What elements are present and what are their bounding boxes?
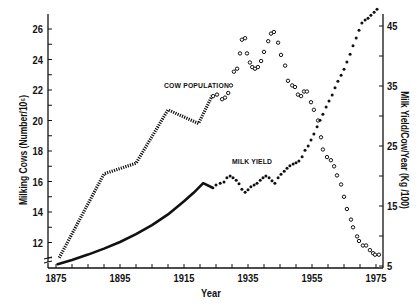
series-layer [58,8,381,265]
milk-yield-point [345,61,348,64]
x-tick-label: 1975 [366,272,387,284]
cow-population-point [267,40,270,43]
cow-population-point [248,61,251,64]
cow-population-point [312,108,315,111]
x-tick-label: 1895 [110,272,131,284]
cow-population-point [342,195,345,198]
cow-population-point [238,52,241,55]
milk-yield-point [312,133,315,136]
milk-yield-point [319,119,322,122]
milk-yield-line [58,183,214,264]
milk-yield-point [244,191,247,194]
right-y-tick-label: 25 [387,140,397,152]
cow-population-point [299,94,302,97]
cow-population-point [272,30,275,33]
cow-population-point [351,226,354,229]
milk-yield-point [364,19,367,22]
milk-yield-point [331,94,334,97]
left-y-tick-label: 12 [26,237,43,249]
cow-population-point [279,53,282,56]
milk-yield-point [367,17,370,20]
cow-population-point [235,67,238,70]
milk-yield-point [215,184,218,187]
milk-yield-point [304,149,307,152]
cow-population-point [245,52,248,55]
cow-population-point [309,101,312,104]
milk-yield-point [349,53,352,56]
cow-population-annotation: COW POPULATION [164,81,229,90]
cow-population-point [232,70,235,73]
milk-yield-point [268,176,271,179]
milk-yield-point [369,14,372,17]
milk-yield-point [321,113,324,116]
milk-yield-point [358,29,361,32]
milk-yield-point [343,68,346,71]
cow-population-point [286,79,289,82]
x-tick-label: 1875 [46,272,67,284]
left-y-tick-label: 18 [26,145,43,157]
cow-population-point [223,96,226,99]
milk-yield-point [310,139,313,142]
milk-yield-point [262,176,265,179]
milk-yield-point [280,173,283,176]
cow-population-point [276,41,279,44]
milk-yield-point [360,22,363,25]
right-y-tick-label: 35 [387,80,397,92]
x-tick-label: 1955 [302,272,323,284]
cow-population-point [215,93,218,96]
milk-yield-point [286,167,289,170]
milk-yield-point [355,37,358,40]
cow-population-point [332,165,335,168]
cow-population-point [211,94,214,97]
left-y-tick-label: 24 [26,54,43,66]
milk-yield-point [225,176,228,179]
milk-yield-point [283,170,286,173]
milk-yield-point [264,175,267,178]
milk-yield-point [273,182,276,185]
cow-population-point [349,218,352,221]
right-y-tick-label: 5 [387,260,392,272]
cow-population-point [243,37,246,40]
milk-yield-point [292,163,295,166]
milk-yield-point [247,188,250,191]
left-y-tick-label: 14 [26,206,43,218]
cow-population-point [262,50,265,53]
cow-population-point [256,65,259,68]
cow-population-point [355,235,358,238]
left-y-tick-label: 20 [26,115,43,127]
milk-yield-point [336,80,339,83]
milk-yield-point [288,164,291,167]
cow-population-point [283,64,286,67]
milk-yield-point [235,179,238,182]
left-y-tick-label: 16 [26,176,43,188]
cow-population-point [368,248,371,251]
cow-population-point [373,253,376,256]
milk-yield-point [232,176,235,179]
milk-yield-point [259,179,262,182]
milk-yield-point [229,175,232,178]
milk-yield-point [307,145,310,148]
x-tick-label: 1915 [174,272,195,284]
milk-yield-point [340,74,343,77]
x-tick-label: 1935 [238,272,259,284]
milk-yield-point [240,188,243,191]
milk-yield-point [325,106,328,109]
cow-population-point [229,84,232,87]
milk-yield-point [219,182,222,185]
milk-yield-point [373,11,376,14]
cow-population-point [335,174,338,177]
right-y-axis-title: Milk Yield/Cow/Year (Kg /100) [399,91,410,209]
cow-population-point [227,91,230,94]
cow-population-point [357,239,360,242]
cow-population-point [329,159,332,162]
cow-population-point [377,253,380,256]
cow-population-point [325,155,328,158]
milk-yield-point [297,160,300,163]
milk-yield-point [316,125,319,128]
milk-yield-point [249,185,252,188]
axes [44,14,383,268]
cow-population-point [305,90,308,93]
milk-yield-point [271,179,274,182]
cow-population-point [345,207,348,210]
milk-yield-point [295,161,298,164]
